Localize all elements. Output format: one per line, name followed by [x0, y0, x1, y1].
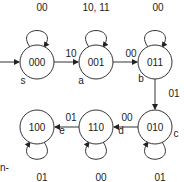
state-label: 011 — [147, 57, 163, 68]
self-loop-c — [145, 142, 166, 159]
self-loop-e — [27, 142, 48, 159]
cut-off-text: n- — [0, 162, 9, 173]
state-diagram: 000 001 011 010 110 100 s a b c d e 00 1… — [0, 0, 184, 182]
loop-label: 01 — [36, 172, 48, 182]
loop-label: 00 — [95, 172, 107, 182]
edge-label: 01 — [168, 88, 180, 99]
state-tag: d — [118, 125, 124, 136]
edge-label: 10 — [65, 48, 77, 59]
edge-label: 01 — [65, 112, 77, 123]
state-tag: e — [59, 125, 65, 136]
loop-label: 00 — [152, 2, 164, 13]
state-tag: b — [138, 73, 144, 84]
state-label: 110 — [88, 122, 104, 133]
loop-label: 00 — [36, 2, 48, 13]
loop-label: 10, 11 — [82, 2, 109, 13]
state-label: 010 — [147, 122, 164, 133]
state-label: 000 — [29, 57, 46, 68]
self-loop-d — [86, 142, 107, 159]
state-label: 100 — [29, 122, 46, 133]
state-tag: s — [21, 75, 26, 86]
edge-label: 00 — [121, 112, 133, 123]
state-tag: c — [174, 128, 179, 139]
loop-label: 01 — [154, 172, 166, 182]
edge-label: 00 — [125, 48, 137, 59]
state-label: 001 — [88, 57, 105, 68]
state-tag: a — [78, 75, 84, 86]
